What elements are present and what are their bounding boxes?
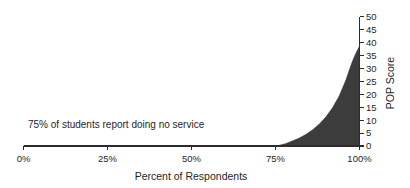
y-tick-label: 5 [366, 127, 371, 138]
y-tick-label: 0 [366, 140, 371, 151]
x-tick-label: 100% [347, 153, 372, 164]
y-axis-title: POP Score [384, 57, 396, 109]
y-tick-label: 20 [366, 89, 377, 100]
pop-score-area-chart: 0%25%50%75%100% 05101520253035404550 Per… [0, 0, 410, 188]
x-tick-label: 0% [17, 153, 31, 164]
y-tick-label: 35 [366, 50, 377, 61]
y-tick-label: 45 [366, 24, 377, 35]
area-series-pop-score [24, 46, 360, 146]
x-axis-ticks: 0%25%50%75%100% [17, 146, 373, 164]
y-tick-label: 30 [366, 63, 377, 74]
y-tick-label: 50 [366, 11, 377, 22]
x-tick-label: 75% [266, 153, 286, 164]
y-axis-ticks: 05101520253035404550 [360, 11, 377, 152]
x-tick-label: 25% [98, 153, 118, 164]
y-tick-label: 40 [366, 37, 377, 48]
no-service-annotation: 75% of students report doing no service [28, 119, 205, 130]
y-tick-label: 15 [366, 102, 377, 113]
x-axis-title: Percent of Respondents [135, 170, 248, 182]
chart-container: 0%25%50%75%100% 05101520253035404550 Per… [0, 0, 410, 188]
y-tick-label: 25 [366, 76, 377, 87]
y-tick-label: 10 [366, 115, 377, 126]
x-tick-label: 50% [182, 153, 202, 164]
